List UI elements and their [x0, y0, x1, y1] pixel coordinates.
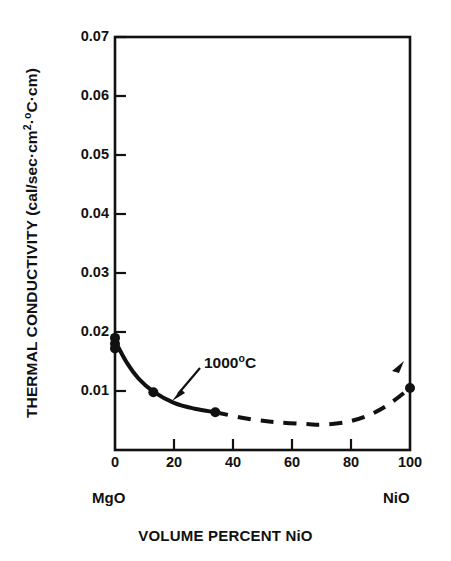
curve-dashed-segment [215, 388, 410, 425]
x-tick-label: 0 [111, 455, 119, 470]
data-markers [110, 333, 415, 417]
chart-figure: THERMAL CONDUCTIVITY (cal/sec·cm2·oC·cm)… [0, 0, 451, 561]
curve-end-arrow-head [392, 361, 404, 373]
data-point-marker [110, 344, 120, 354]
endpoint-label-left: MgO [92, 489, 125, 506]
data-point-marker [148, 387, 158, 397]
x-tick-label: 60 [284, 455, 300, 470]
x-tick-label: 20 [166, 455, 182, 470]
data-point-marker [405, 383, 415, 393]
axis-frame [115, 37, 410, 450]
x-axis-tick-labels: 020406080100 [0, 455, 451, 477]
curve-solid-segment [115, 341, 215, 412]
x-tick-label: 100 [398, 455, 422, 470]
data-curve [115, 341, 410, 425]
annotation-1000c: 1000oC [204, 354, 256, 372]
data-point-marker [210, 407, 220, 417]
x-tick-label: 80 [343, 455, 359, 470]
x-axis-title: VOLUME PERCENT NiO [0, 527, 451, 544]
plot-frame [115, 37, 410, 450]
annotation-value: 1000 [204, 354, 238, 371]
x-tick-label: 40 [225, 455, 241, 470]
annotation-arrow-head [172, 389, 185, 401]
endpoint-label-right: NiO [383, 489, 410, 506]
annotation-unit: C [245, 354, 256, 371]
